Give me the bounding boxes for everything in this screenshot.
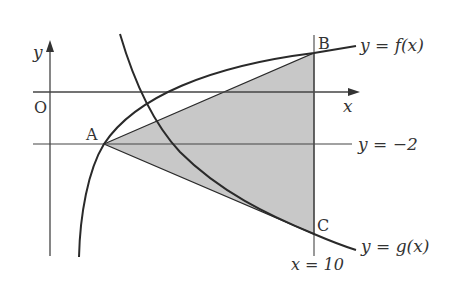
y-axis-arrow-icon [46, 40, 54, 52]
x-axis-label: x [343, 96, 353, 116]
point-a-label: A [85, 125, 98, 144]
curve-f-label: y = f(x) [359, 35, 424, 55]
point-c-label: C [317, 216, 329, 235]
vertical-line-label: x = 10 [291, 255, 344, 274]
y-axis-label: y [32, 42, 43, 62]
x-axis-arrow-icon [348, 88, 360, 96]
horizontal-line-label: y = −2 [357, 134, 418, 154]
point-b-label: B [318, 34, 330, 53]
curve-g-label: y = g(x) [360, 236, 429, 256]
origin-label: O [34, 98, 47, 117]
diagram-figure: y x O A B C y = f(x) y = g(x) y = −2 x =… [0, 0, 468, 293]
